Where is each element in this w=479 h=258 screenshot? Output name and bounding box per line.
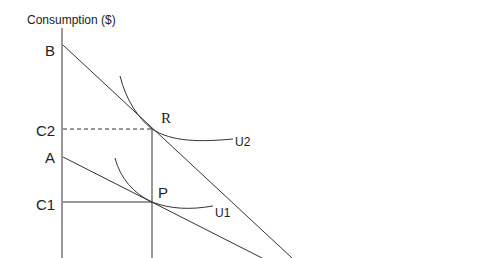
- curve-label-u2: U2: [235, 135, 251, 149]
- tick-label-b: B: [45, 42, 55, 59]
- budget-line-b: [63, 45, 292, 258]
- curve-label-u1: U1: [215, 206, 231, 220]
- point-label-r: R: [161, 110, 171, 126]
- tick-label-c2: C2: [36, 122, 55, 139]
- tick-label-c1: C1: [36, 196, 55, 213]
- indifference-curve-u2: [120, 76, 233, 141]
- consumption-diagram: Consumption ($) B C2 A C1 R P U2 U1: [0, 0, 479, 258]
- point-label-p: P: [158, 184, 168, 201]
- budget-line-a: [63, 157, 262, 258]
- y-axis-label: Consumption ($): [27, 13, 116, 27]
- tick-label-a: A: [45, 149, 55, 166]
